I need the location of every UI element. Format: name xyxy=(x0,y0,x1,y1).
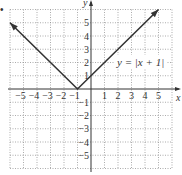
y-tick-label: 4 xyxy=(84,31,89,42)
x-axis-label: x xyxy=(175,92,181,103)
x-tick-label: 3 xyxy=(129,90,134,101)
equation-label: y = |x + 1| xyxy=(116,56,164,68)
x-tick-label: −5 xyxy=(15,90,26,101)
axes xyxy=(8,0,181,172)
y-tick-label: 3 xyxy=(84,44,89,55)
x-axis-arrow-icon xyxy=(175,87,181,91)
y-tick-label: −2 xyxy=(78,110,89,121)
y-tick-label: −1 xyxy=(78,97,89,108)
y-tick-label: −4 xyxy=(78,137,89,148)
x-tick-label: −4 xyxy=(29,90,40,101)
x-tick-label: 2 xyxy=(116,90,121,101)
x-tick-label: 4 xyxy=(143,90,148,101)
graph-abs-value: −5−4−3−2−112345−5−4−3−2−112345 y = |x + … xyxy=(0,0,182,175)
y-tick-label: 2 xyxy=(84,57,89,68)
x-tick-label: 5 xyxy=(156,90,161,101)
y-axis-arrow-icon xyxy=(89,0,93,6)
x-tick-label: 1 xyxy=(102,90,107,101)
y-tick-label: −3 xyxy=(78,123,89,134)
y-tick-label: −5 xyxy=(78,150,89,161)
x-tick-label: −2 xyxy=(56,90,67,101)
x-tick-label: −3 xyxy=(42,90,53,101)
y-axis-label: y xyxy=(82,0,88,8)
y-tick-label: 5 xyxy=(84,17,89,28)
